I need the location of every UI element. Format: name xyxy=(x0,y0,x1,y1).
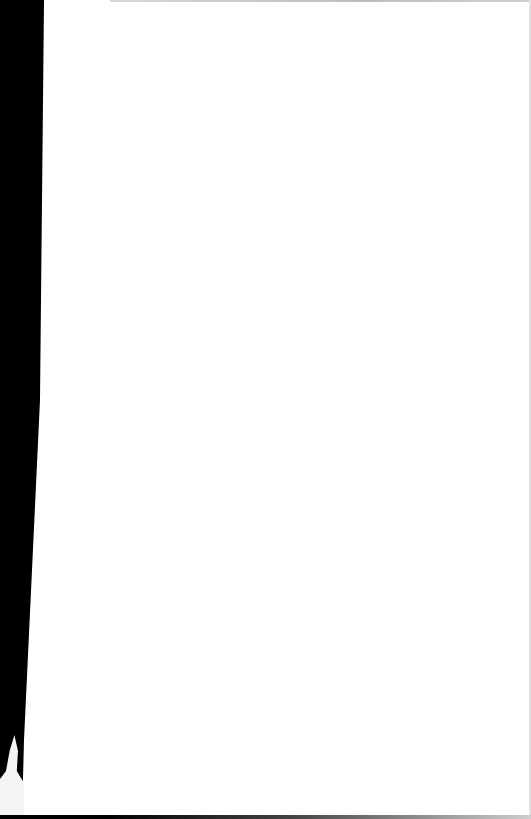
page-top-edge xyxy=(110,0,531,2)
page-bottom-edge xyxy=(0,815,531,819)
blank-page xyxy=(0,0,531,819)
torn-corner xyxy=(0,735,24,815)
scanned-document xyxy=(0,0,531,819)
